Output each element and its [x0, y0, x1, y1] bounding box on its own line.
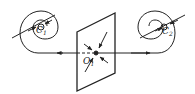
center-point-label: O1 [83, 56, 94, 67]
left-source-label: C1 [36, 25, 47, 36]
arrow-upper-right [99, 32, 107, 48]
center-point [94, 51, 98, 55]
diagram-canvas: C1 C2 O1 [0, 0, 195, 94]
right-source-label: C2 [162, 26, 173, 37]
left-axis-line [12, 15, 55, 38]
arrow-upper-left [84, 44, 92, 50]
center-point-group [84, 32, 108, 72]
right-spiral-source [131, 11, 185, 53]
arrow-lower-right [100, 57, 108, 63]
